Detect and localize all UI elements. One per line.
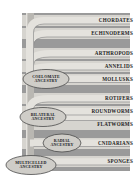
taxon-label-cnidarians: CNIDARIANS bbox=[98, 140, 133, 147]
taxon-label-arthropods: ARTHROPODS bbox=[95, 50, 133, 57]
taxon-label-rotifers: ROTIFERS bbox=[105, 95, 133, 102]
taxon-label-echinoderms: ECHINODERMS bbox=[91, 30, 133, 37]
node-label-coelomate-line2: ANCESTRY bbox=[23, 79, 69, 84]
node-label-multicelled-ancestry: MULTICELLED ANCESTRY bbox=[6, 161, 56, 170]
node-label-coelomate-ancestry: COELOMATE ANCESTRY bbox=[23, 75, 69, 84]
taxon-label-mollusks: MOLLUSKS bbox=[102, 76, 133, 83]
taxon-label-chordates: CHORDATES bbox=[99, 17, 133, 24]
node-label-radial-ancestry: RADIAL ANCESTRY bbox=[43, 139, 81, 148]
taxon-label-flatworms: FLATWORMS bbox=[97, 121, 133, 128]
node-label-bilateral-line2: ANCESTRY bbox=[20, 117, 66, 122]
node-label-radial-line2: ANCESTRY bbox=[43, 143, 81, 148]
taxon-label-sponges: SPONGES bbox=[107, 158, 133, 165]
node-label-multicelled-line2: ANCESTRY bbox=[6, 165, 56, 170]
taxon-label-annelids: ANNELIDS bbox=[105, 63, 133, 70]
taxon-label-roundworms: ROUNDWORMS bbox=[91, 108, 133, 115]
node-label-bilateral-ancestry: BILATERAL ANCESTRY bbox=[20, 113, 66, 122]
cladogram-figure: CHORDATES ECHINODERMS ARTHROPODS ANNELID… bbox=[0, 0, 136, 186]
